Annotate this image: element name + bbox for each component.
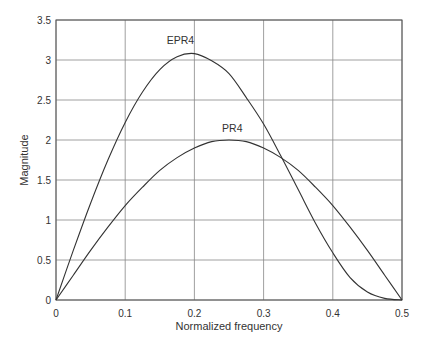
series-label-pr4: PR4 [222,122,243,134]
x-tick-labels: 00.10.20.30.40.5 [53,308,409,319]
series-label-epr4: EPR4 [167,34,195,46]
y-tick-labels: 00.511.522.533.5 [37,15,51,306]
x-tick-label: 0.5 [395,308,409,319]
x-tick-label: 0.1 [118,308,132,319]
y-tick-label: 2 [45,135,51,146]
x-tick-label: 0 [53,308,59,319]
chart: 00.10.20.30.40.5 00.511.522.533.5 EPR4PR… [0,0,427,347]
y-tick-label: 1.5 [37,175,51,186]
series-line-epr4 [56,53,402,300]
y-tick-label: 2.5 [37,95,51,106]
series-lines [56,53,402,300]
x-tick-label: 0.3 [257,308,271,319]
y-tick-label: 1 [45,215,51,226]
y-tick-label: 3.5 [37,15,51,26]
y-tick-label: 0 [45,295,51,306]
y-tick-label: 3 [45,55,51,66]
x-tick-label: 0.4 [326,308,340,319]
series-labels: EPR4PR4 [167,34,243,134]
x-axis-label: Normalized frequency [176,320,283,332]
x-tick-label: 0.2 [187,308,201,319]
y-tick-label: 0.5 [37,255,51,266]
y-axis-label: Magnitude [18,134,30,185]
